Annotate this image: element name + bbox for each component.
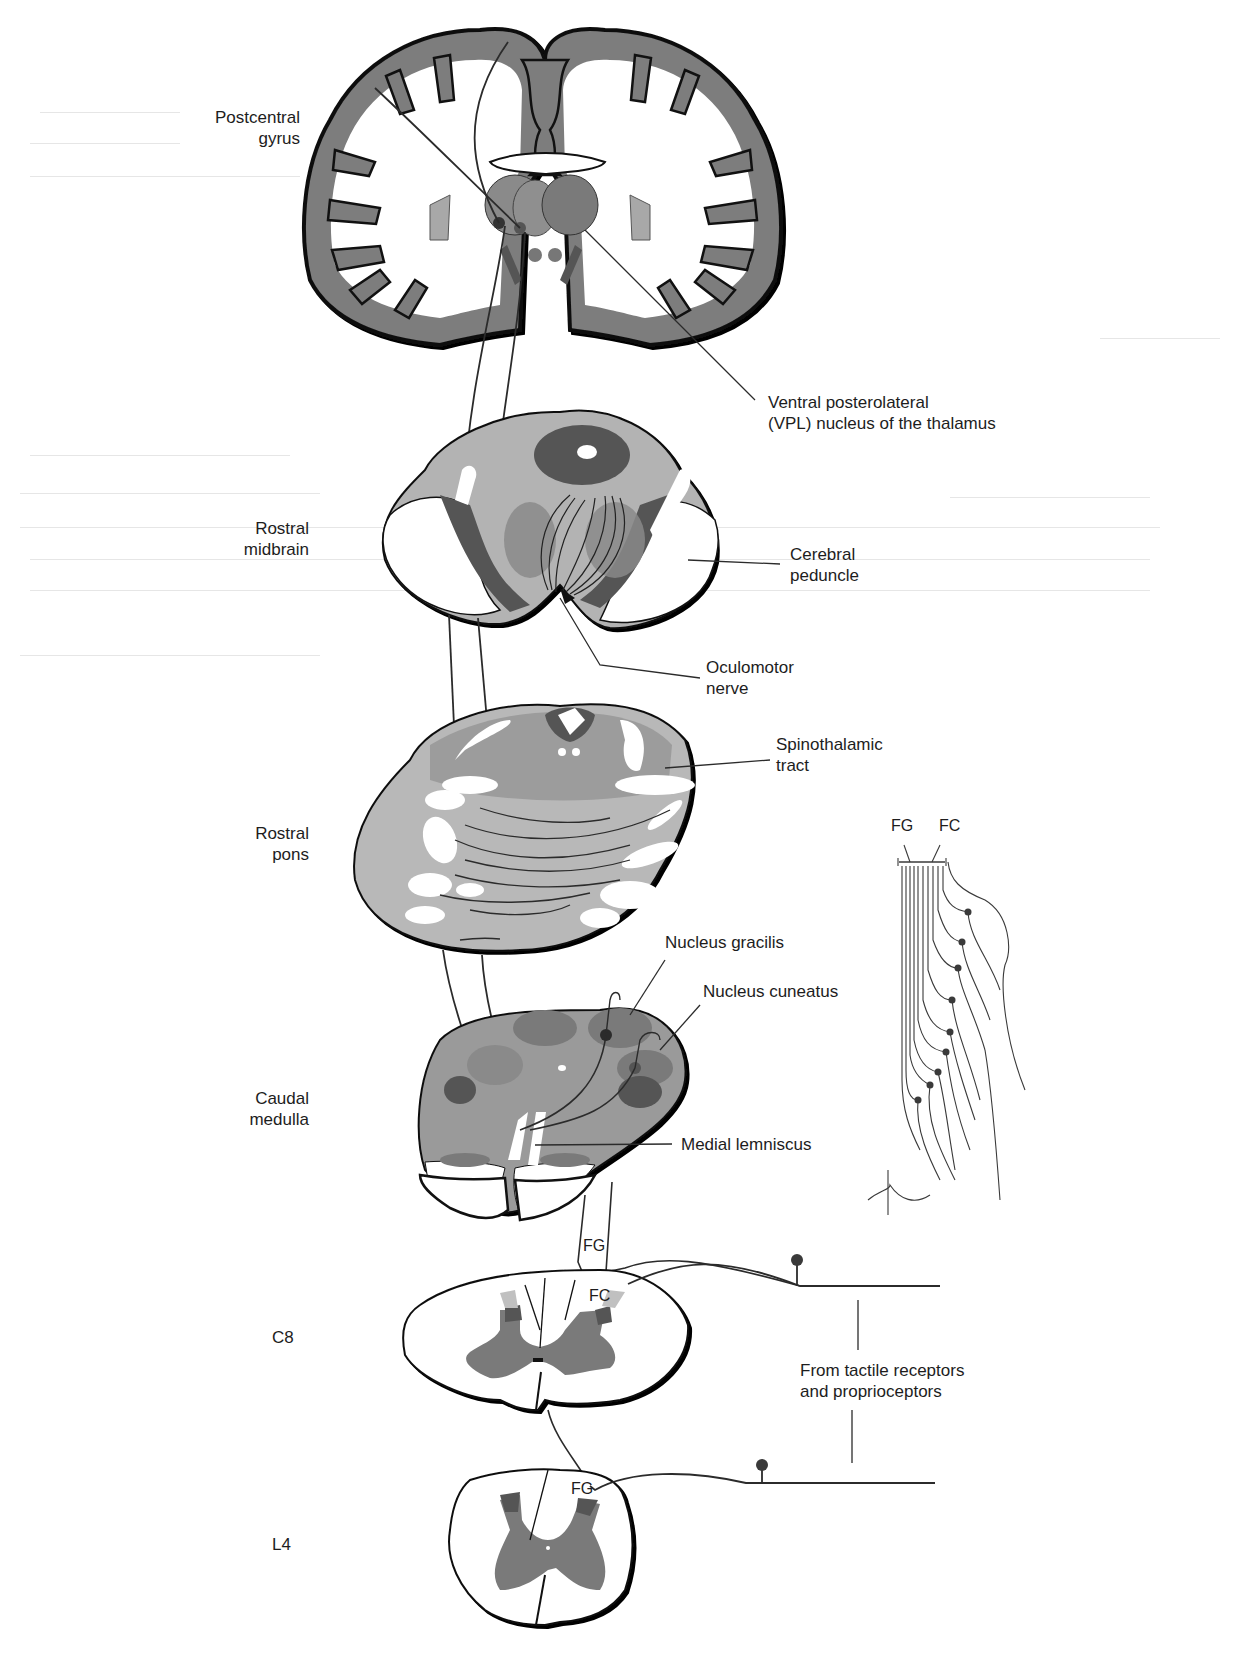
label-line: (VPL) nucleus of the thalamus bbox=[768, 413, 996, 434]
label-medial-lemniscus: Medial lemniscus bbox=[681, 1134, 811, 1155]
label-nucleus-cuneatus: Nucleus cuneatus bbox=[703, 981, 838, 1002]
rostral-pons-section bbox=[354, 704, 770, 950]
label-line: Caudal bbox=[249, 1088, 309, 1109]
dorsal-root-c8 bbox=[628, 1264, 940, 1286]
label-rostral-midbrain: Rostral midbrain bbox=[244, 518, 309, 560]
drg-neuron-l4 bbox=[756, 1459, 768, 1471]
l4-label-fg: FG bbox=[571, 1478, 593, 1499]
label-oculomotor-nerve: Oculomotor nerve bbox=[706, 657, 794, 699]
drg-neuron-c8 bbox=[791, 1254, 803, 1266]
label-line: Nucleus gracilis bbox=[665, 932, 784, 953]
inset-label-fg: FG bbox=[891, 815, 913, 836]
label-receptors: From tactile receptors and proprioceptor… bbox=[800, 1360, 964, 1402]
l4-spinal-cord-section bbox=[449, 1469, 632, 1625]
label-line: Oculomotor bbox=[706, 657, 794, 678]
c8-label-fg: FG bbox=[583, 1235, 605, 1256]
label-line: Postcentral bbox=[215, 107, 300, 128]
label-line: gyrus bbox=[215, 128, 300, 149]
inset-label-fc: FC bbox=[939, 815, 960, 836]
c8-label-fc: FC bbox=[589, 1285, 610, 1306]
label-vpl-nucleus: Ventral posterolateral (VPL) nucleus of … bbox=[768, 392, 996, 434]
label-postcentral-gyrus: Postcentral gyrus bbox=[215, 107, 300, 149]
label-line: From tactile receptors bbox=[800, 1360, 964, 1381]
label-line: tract bbox=[776, 755, 883, 776]
label-caudal-medulla: Caudal medulla bbox=[249, 1088, 309, 1130]
pathway-diagram bbox=[0, 0, 1258, 1660]
label-spinothalamic-tract: Spinothalamic tract bbox=[776, 734, 883, 776]
label-line: midbrain bbox=[244, 539, 309, 560]
label-line: Nucleus cuneatus bbox=[703, 981, 838, 1002]
label-line: L4 bbox=[272, 1534, 291, 1555]
label-line: nerve bbox=[706, 678, 794, 699]
rostral-midbrain-section bbox=[383, 411, 780, 678]
caudal-medulla-section bbox=[419, 960, 700, 1220]
label-l4: L4 bbox=[272, 1534, 291, 1555]
coronal-brain-section bbox=[304, 29, 781, 400]
label-line: peduncle bbox=[790, 565, 859, 586]
label-cerebral-peduncle: Cerebral peduncle bbox=[790, 544, 859, 586]
c8-spinal-cord-section bbox=[403, 1270, 688, 1410]
label-line: Rostral bbox=[255, 823, 309, 844]
label-line: Cerebral bbox=[790, 544, 859, 565]
label-rostral-pons: Rostral pons bbox=[255, 823, 309, 865]
label-line: medulla bbox=[249, 1109, 309, 1130]
label-line: Medial lemniscus bbox=[681, 1134, 811, 1155]
label-c8: C8 bbox=[272, 1327, 294, 1348]
label-line: and proprioceptors bbox=[800, 1381, 964, 1402]
label-nucleus-gracilis: Nucleus gracilis bbox=[665, 932, 784, 953]
label-line: Ventral posterolateral bbox=[768, 392, 996, 413]
label-line: Spinothalamic bbox=[776, 734, 883, 755]
nucleus-gracilis-shape bbox=[588, 1008, 652, 1048]
label-line: C8 bbox=[272, 1327, 294, 1348]
label-line: Rostral bbox=[244, 518, 309, 539]
dermatome-inset bbox=[868, 845, 1025, 1215]
label-line: pons bbox=[255, 844, 309, 865]
